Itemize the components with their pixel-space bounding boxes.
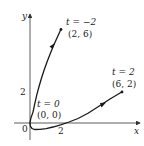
t-label-0: t = 0	[37, 99, 60, 109]
parametric-plot: y x 0 2 2 t = −2 (2, 6) t = 0 (0, 0) t =…	[0, 0, 144, 146]
t-label-2: t = 2	[112, 67, 135, 77]
coord-label-2-6: (2, 6)	[68, 29, 92, 39]
x-axis-label: x	[134, 126, 139, 136]
direction-arrow-icon	[100, 103, 106, 108]
t-label-neg2: t = −2	[66, 17, 96, 27]
direction-arrow-icon	[50, 43, 56, 49]
y-tick-2: 2	[20, 87, 26, 97]
point-t-2	[121, 91, 124, 94]
x-tick-2: 2	[58, 126, 64, 136]
coord-label-6-2: (6, 2)	[112, 79, 136, 89]
origin-label: 0	[22, 124, 28, 134]
coord-label-0-0: (0, 0)	[37, 110, 61, 120]
y-axis-label: y	[21, 11, 28, 21]
point-t-neg2	[60, 28, 63, 31]
